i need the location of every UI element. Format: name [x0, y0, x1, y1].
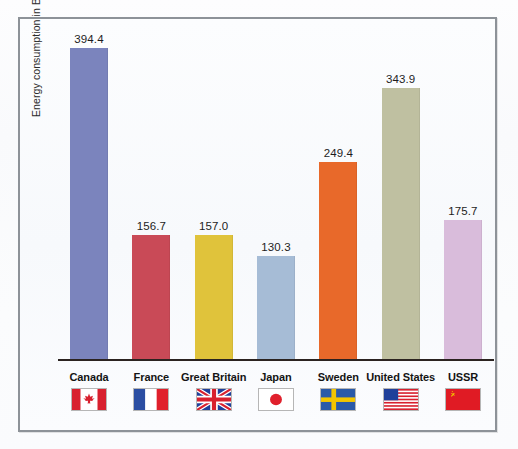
bar-japan[interactable]: 130.3	[245, 25, 307, 359]
bar-rect-canada	[70, 48, 108, 359]
legend-item-great-britain[interactable]: Great Britain	[183, 371, 245, 427]
bar-rect-united-states	[382, 88, 420, 359]
legend-item-france[interactable]: France	[120, 371, 182, 427]
flag-united-states-icon	[383, 388, 419, 411]
country-label-france: France	[134, 371, 169, 383]
country-label-canada: Canada	[69, 371, 108, 383]
country-legend-row: Canada France Great Brita	[58, 371, 494, 427]
bar-value-united-states: 343.9	[386, 73, 415, 85]
flag-united-kingdom-icon	[196, 388, 232, 411]
bar-rect-france	[132, 235, 170, 359]
bar-united-states[interactable]: 343.9	[370, 25, 432, 359]
bar-great-britain[interactable]: 157.0	[183, 25, 245, 359]
y-axis-label: Energy consumption in Btu	[30, 0, 42, 117]
legend-item-united-states[interactable]: United States	[370, 371, 432, 427]
legend-item-ussr[interactable]: USSR	[432, 371, 494, 427]
bar-canada[interactable]: 394.4	[58, 25, 120, 359]
bar-value-great-britain: 157.0	[199, 220, 228, 232]
bar-france[interactable]: 156.7	[120, 25, 182, 359]
bar-rect-sweden	[319, 162, 357, 359]
country-label-ussr: USSR	[448, 371, 478, 383]
flag-japan-icon	[258, 388, 294, 411]
country-label-united-states: United States	[366, 371, 435, 383]
bar-ussr[interactable]: 175.7	[432, 25, 494, 359]
legend-item-japan[interactable]: Japan	[245, 371, 307, 427]
bar-rect-japan	[257, 256, 295, 359]
bar-rect-great-britain	[195, 235, 233, 359]
x-axis-baseline	[58, 359, 494, 361]
bar-value-france: 156.7	[137, 220, 166, 232]
bar-sweden[interactable]: 249.4	[307, 25, 369, 359]
bar-group: 394.4 156.7 157.0 130.3 249.4	[58, 25, 494, 359]
bar-value-canada: 394.4	[74, 33, 103, 45]
country-label-great-britain: Great Britain	[181, 371, 246, 383]
bar-value-ussr: 175.7	[448, 205, 477, 217]
country-label-japan: Japan	[260, 371, 291, 383]
flag-france-icon	[133, 388, 169, 411]
bar-rect-ussr	[444, 220, 482, 359]
bar-value-sweden: 249.4	[324, 147, 353, 159]
chart-frame: Energy consumption in Btu 394.4 156.7 15…	[18, 17, 497, 432]
flag-ussr-icon	[445, 388, 481, 411]
plot-area: Energy consumption in Btu 394.4 156.7 15…	[42, 25, 494, 363]
country-label-sweden: Sweden	[318, 371, 359, 383]
legend-item-sweden[interactable]: Sweden	[307, 371, 369, 427]
flag-canada-icon	[71, 388, 107, 411]
legend-item-canada[interactable]: Canada	[58, 371, 120, 427]
flag-sweden-icon	[320, 388, 356, 411]
bar-value-japan: 130.3	[261, 241, 290, 253]
